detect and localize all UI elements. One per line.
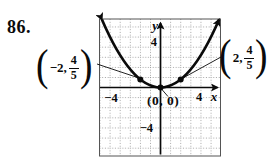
close-paren: ) <box>80 44 92 88</box>
fraction: 4 5 <box>244 44 254 71</box>
fraction-denominator: 5 <box>244 59 254 72</box>
point-label-origin: (0, 0) <box>147 93 179 109</box>
point-label-left: ( −2, 4 5 ) <box>35 45 93 91</box>
close-paren: ) <box>256 34 268 78</box>
point-origin <box>158 85 164 91</box>
fraction: 4 5 <box>69 54 79 81</box>
tick-x-neg: −4 <box>104 91 118 105</box>
point-neg2 <box>137 76 143 82</box>
y-axis-label: y <box>150 18 158 33</box>
open-paren: ( <box>219 34 231 78</box>
fraction-numerator: 4 <box>244 44 254 58</box>
figure-page: 86. 4 −4 −4 4 x y <box>0 0 269 161</box>
tick-y-neg: −4 <box>140 121 154 135</box>
x-axis-label: x <box>210 89 218 104</box>
x-coordinate: −2, <box>50 60 67 76</box>
open-paren: ( <box>36 44 48 88</box>
tick-x-pos: 4 <box>196 90 203 104</box>
point-label-right: ( 2, 4 5 ) <box>218 33 269 83</box>
x-coordinate: 2, <box>233 50 243 66</box>
tick-y-pos: 4 <box>151 35 158 49</box>
point-pos2 <box>178 76 184 82</box>
fraction-denominator: 5 <box>69 69 79 82</box>
fraction-numerator: 4 <box>69 54 79 68</box>
